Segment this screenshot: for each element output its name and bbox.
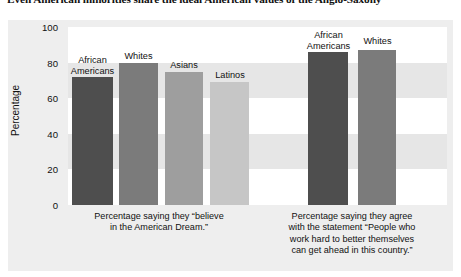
- bar-label-whites-workhard: Whites: [352, 36, 403, 47]
- bar-label-african-americans-workhard: African Americans: [300, 30, 357, 51]
- bar-label-asians-dream: Asians: [159, 60, 209, 71]
- y-tick-0: 0: [32, 200, 58, 211]
- bar-label-latinos-dream: Latinos: [205, 70, 255, 81]
- bar-african-americans-dream: [72, 77, 113, 205]
- bar-whites-dream: [119, 63, 158, 205]
- group-caption-american-dream: Percentage saying they “believe in the A…: [68, 211, 250, 234]
- figure-caption: Even American minorities share the ideal…: [7, 0, 454, 7]
- bar-african-americans-workhard: [308, 52, 348, 205]
- chart-panel: Percentage 100 80 60 40 20 0 African Ame…: [8, 20, 453, 271]
- bar-asians-dream: [165, 72, 203, 206]
- bar-whites-workhard: [358, 50, 396, 205]
- plot-area: African Americans Whites Asians Latinos …: [68, 27, 447, 205]
- group-caption-work-hard: Percentage saying they agree with the st…: [260, 211, 444, 257]
- bar-latinos-dream: [210, 82, 249, 205]
- y-tick-60: 60: [32, 93, 58, 104]
- y-tick-80: 80: [32, 57, 58, 68]
- y-tick-100: 100: [32, 22, 58, 33]
- y-tick-20: 20: [32, 164, 58, 175]
- bar-label-whites-dream: Whites: [113, 51, 164, 62]
- y-tick-40: 40: [32, 128, 58, 139]
- y-axis-title: Percentage: [10, 85, 21, 136]
